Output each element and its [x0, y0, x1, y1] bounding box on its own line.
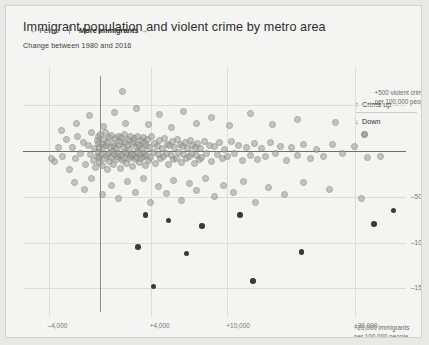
data-point [81, 186, 88, 193]
data-point [117, 165, 124, 172]
data-point [329, 141, 336, 148]
data-point [299, 249, 305, 255]
data-point [122, 120, 129, 127]
data-point [252, 199, 259, 206]
data-point [237, 212, 243, 218]
data-point [193, 120, 200, 127]
data-point [313, 146, 320, 153]
data-point [86, 112, 93, 119]
direction-fewer-label: ← Fewer [30, 26, 60, 35]
data-point [269, 121, 276, 128]
data-point [294, 116, 301, 123]
data-point [140, 175, 147, 182]
data-point [251, 140, 258, 147]
data-point [208, 158, 215, 165]
x-axis-tick-label: +4,000 [150, 322, 170, 329]
data-point [115, 195, 122, 202]
data-point [332, 119, 339, 126]
data-point [221, 146, 228, 153]
data-point [250, 278, 256, 284]
data-point [300, 141, 307, 148]
data-point [307, 155, 314, 162]
x-axis-tick-label: –4,000 [48, 322, 68, 329]
data-point [111, 109, 118, 116]
data-point [228, 138, 235, 145]
data-point [254, 156, 261, 163]
data-point [74, 133, 81, 140]
gridline-horizontal [23, 105, 406, 106]
y-axis-tick-label: –500 [411, 193, 422, 200]
data-point [145, 121, 152, 128]
data-point [288, 144, 295, 151]
data-point [143, 212, 149, 218]
data-point [73, 120, 80, 127]
data-point [283, 157, 290, 164]
data-point [326, 186, 333, 193]
data-point [170, 177, 177, 184]
data-point [235, 142, 242, 149]
data-point [240, 178, 247, 185]
y-axis-tick-label: –1000 [411, 239, 422, 246]
data-point [320, 153, 327, 160]
data-point [377, 153, 384, 160]
data-point [82, 161, 89, 168]
data-point [203, 150, 210, 157]
data-point [119, 88, 126, 95]
data-point [156, 111, 163, 118]
x-axis-tick-label: +20,000 [354, 322, 378, 329]
data-point [99, 191, 106, 198]
gridline-horizontal [23, 243, 406, 244]
data-point [63, 136, 70, 143]
y-axis-tick-label: –1500 [411, 284, 422, 291]
data-point [147, 199, 154, 206]
data-point [88, 175, 95, 182]
data-point [220, 182, 227, 189]
data-point [351, 143, 358, 150]
data-point [358, 195, 365, 202]
data-point [71, 179, 78, 186]
data-point [202, 175, 209, 182]
data-point [135, 244, 141, 250]
data-point [208, 114, 215, 121]
data-point [108, 182, 115, 189]
chart-subtitle: Change between 1980 and 2016 [23, 41, 132, 50]
data-point [247, 152, 254, 159]
data-point [124, 178, 131, 185]
direction-annotation: ← Fewer More immigrants → [30, 25, 148, 35]
data-point [339, 150, 346, 157]
direction-more-label: More immigrants → [79, 26, 148, 35]
data-point [391, 208, 397, 214]
data-point [163, 190, 170, 197]
data-point [178, 197, 185, 204]
data-point [199, 223, 205, 229]
data-point [226, 122, 233, 129]
data-point [364, 154, 371, 161]
data-point [371, 221, 377, 227]
data-point [133, 105, 140, 112]
data-point [77, 150, 84, 157]
data-point [55, 144, 62, 151]
data-point [180, 108, 187, 115]
data-point [186, 180, 193, 187]
scatter-plot: –4,000+4,000+10,000+20,000–500–1000–1500 [23, 68, 406, 316]
data-point [211, 193, 218, 200]
data-point [59, 153, 66, 160]
data-point [265, 184, 272, 191]
data-point [262, 153, 269, 160]
x-axis-tick-label: +10,000 [226, 322, 250, 329]
data-point [132, 189, 139, 196]
data-point [243, 144, 250, 151]
data-point [247, 110, 254, 117]
data-point [230, 189, 237, 196]
data-point [231, 150, 238, 157]
x-axis-note-line2: per 100,000 people [354, 332, 409, 338]
data-point [168, 124, 175, 131]
data-point [155, 183, 162, 190]
data-point [129, 163, 136, 170]
data-point [294, 152, 301, 159]
data-point [272, 150, 279, 157]
data-point [300, 179, 307, 186]
data-point [66, 166, 73, 173]
data-point [166, 218, 172, 224]
data-point [239, 157, 246, 164]
